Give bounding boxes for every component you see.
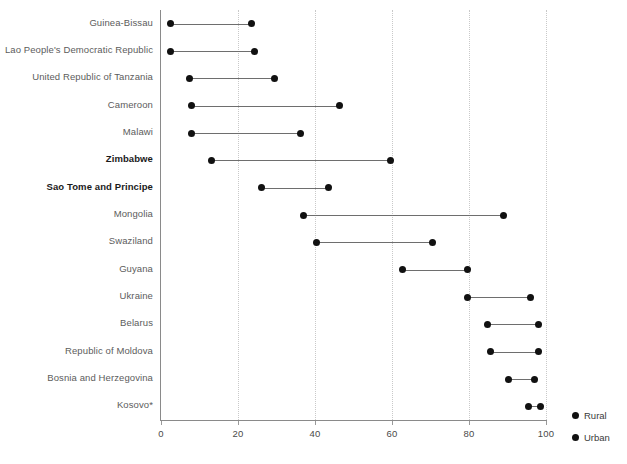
x-axis-line <box>160 420 547 421</box>
legend-item-rural[interactable]: Rural <box>572 404 627 426</box>
rural-data-point[interactable] <box>186 75 193 82</box>
gridline-40 <box>315 10 317 422</box>
tick-mark-0 <box>161 421 162 425</box>
category-label: Lao People's Democratic Republic <box>5 44 153 55</box>
urban-data-point[interactable] <box>500 212 507 219</box>
rural-data-point[interactable] <box>258 184 265 191</box>
x-tick-label-20: 20 <box>233 428 244 439</box>
rural-data-point[interactable] <box>208 157 215 164</box>
category-label: Kosovo* <box>117 399 153 410</box>
category-label: Mongolia <box>114 208 153 219</box>
category-label: Swaziland <box>109 235 153 246</box>
tick-mark-60 <box>392 421 393 425</box>
connector-line <box>171 24 252 25</box>
urban-data-point[interactable] <box>527 294 534 301</box>
urban-data-point[interactable] <box>429 239 436 246</box>
category-label: Guinea-Bissau <box>89 17 153 28</box>
urban-data-point[interactable] <box>535 348 542 355</box>
rural-data-point[interactable] <box>487 348 494 355</box>
urban-data-point[interactable] <box>535 321 542 328</box>
connector-line <box>192 133 301 134</box>
urban-data-point[interactable] <box>251 48 258 55</box>
connector-line <box>262 188 329 189</box>
rural-data-point[interactable] <box>484 321 491 328</box>
x-tick-label-60: 60 <box>387 428 398 439</box>
y-axis-line <box>160 10 161 420</box>
urban-data-point[interactable] <box>387 157 394 164</box>
category-label: United Republic of Tanzania <box>32 71 153 82</box>
urban-data-point[interactable] <box>248 20 255 27</box>
category-label: Belarus <box>120 317 153 328</box>
urban-data-point[interactable] <box>537 403 544 410</box>
rural-data-point[interactable] <box>167 48 174 55</box>
tick-mark-20 <box>238 421 239 425</box>
urban-data-point[interactable] <box>531 376 538 383</box>
urban-data-point[interactable] <box>271 75 278 82</box>
tick-mark-40 <box>315 421 316 425</box>
category-label: Ukraine <box>120 290 153 301</box>
category-label: Sao Tome and Principe <box>47 181 153 192</box>
urban-data-point[interactable] <box>464 266 471 273</box>
rural-data-point[interactable] <box>188 102 195 109</box>
rural-data-point[interactable] <box>300 212 307 219</box>
urban-dot-icon <box>572 434 579 441</box>
x-tick-label-40: 40 <box>310 428 321 439</box>
rural-data-point[interactable] <box>399 266 406 273</box>
chart-legend: Rural Urban <box>572 404 627 448</box>
rural-data-point[interactable] <box>188 130 195 137</box>
rural-data-point[interactable] <box>505 376 512 383</box>
x-tick-label-0: 0 <box>158 428 163 439</box>
urban-data-point[interactable] <box>325 184 332 191</box>
urban-data-point[interactable] <box>336 102 343 109</box>
rural-data-point[interactable] <box>525 403 532 410</box>
rural-data-point[interactable] <box>464 294 471 301</box>
category-label: Malawi <box>123 126 153 137</box>
connector-line <box>192 106 339 107</box>
legend-label-urban: Urban <box>584 427 610 449</box>
connector-line <box>189 78 274 79</box>
rural-data-point[interactable] <box>313 239 320 246</box>
rural-dot-icon <box>572 412 579 419</box>
category-label: Zimbabwe <box>106 153 153 164</box>
gridline-60 <box>392 10 394 422</box>
category-label: Republic of Moldova <box>65 345 153 356</box>
connector-line <box>402 270 467 271</box>
category-label: Guyana <box>119 263 153 274</box>
tick-mark-100 <box>546 421 547 425</box>
connector-line <box>316 242 432 243</box>
connector-line <box>303 215 503 216</box>
x-tick-label-80: 80 <box>464 428 475 439</box>
legend-label-rural: Rural <box>584 405 607 427</box>
urban-data-point[interactable] <box>297 130 304 137</box>
gridline-100 <box>546 10 548 422</box>
dumbbell-chart: 020406080100 Guinea-BissauLao People's D… <box>0 0 627 464</box>
category-label: Bosnia and Herzegovina <box>47 372 153 383</box>
connector-line <box>468 297 531 298</box>
tick-mark-80 <box>469 421 470 425</box>
legend-item-urban[interactable]: Urban <box>572 426 627 448</box>
x-tick-label-100: 100 <box>538 428 554 439</box>
connector-line <box>491 352 538 353</box>
connector-line <box>212 160 391 161</box>
category-label: Cameroon <box>108 99 153 110</box>
connector-line <box>487 324 538 325</box>
gridline-20 <box>238 10 240 422</box>
connector-line <box>171 51 255 52</box>
rural-data-point[interactable] <box>167 20 174 27</box>
gridline-80 <box>469 10 471 422</box>
